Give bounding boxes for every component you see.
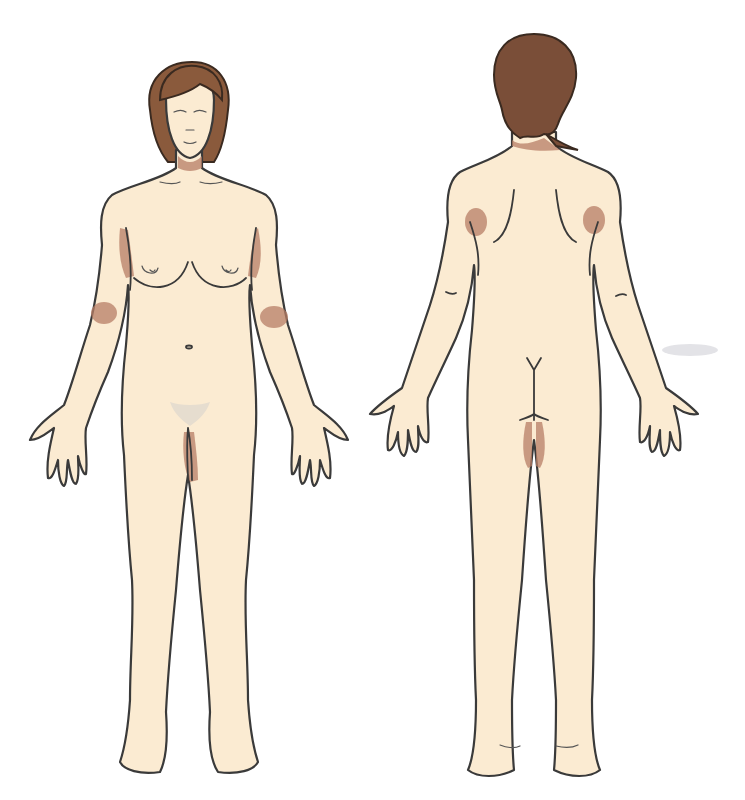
body-diagram-svg bbox=[0, 0, 745, 800]
front-elbow-left bbox=[260, 306, 288, 328]
front-elbow-right bbox=[91, 302, 117, 324]
body-diagram bbox=[0, 0, 745, 800]
back-body-outline bbox=[370, 132, 698, 776]
scan-artifact bbox=[662, 344, 718, 356]
back-axilla-right bbox=[465, 208, 487, 236]
back-axilla-left bbox=[583, 206, 605, 234]
back-view bbox=[370, 34, 698, 776]
front-view bbox=[30, 62, 348, 773]
back-hair bbox=[494, 34, 576, 138]
